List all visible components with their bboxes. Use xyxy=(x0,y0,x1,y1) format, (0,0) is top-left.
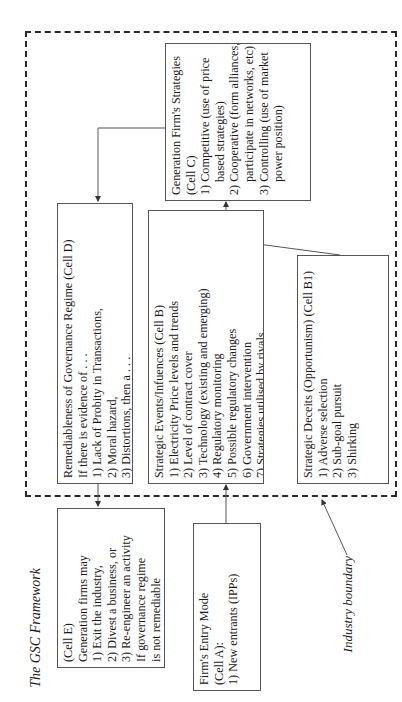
cell-b1-line: 2) Sub-goal pursuit xyxy=(330,261,345,478)
cell-b1-line: 3) Shirking xyxy=(345,261,360,478)
cell-b-line: 2) Level of contract cover xyxy=(181,216,196,478)
cell-e-line: 3) Re-engineer an activity xyxy=(119,514,134,662)
cell-b-box: Strategic Events/Infuences (Cell B) 1) E… xyxy=(148,210,264,484)
cell-d-line: 3) Distortions, then a . . . xyxy=(119,209,133,478)
cell-a-box: Firm's Entry Mode (Cell A): 1) New entra… xyxy=(193,523,261,691)
cell-b-line: 7) Strategies utilised by rivals xyxy=(254,216,264,478)
cell-b-line: 6) Government intervention xyxy=(240,216,255,478)
cell-b1-line: 1) Adverse selection xyxy=(316,261,331,478)
cell-b-line: 5) Possible regulatory changes xyxy=(225,216,240,478)
cell-a-line: (Cell A): xyxy=(212,529,227,685)
cell-d-title: Remediableness of Governance Regime (Cel… xyxy=(61,209,76,478)
cell-a-line: 1) New entrants (IPPs) xyxy=(226,529,241,685)
cell-c-line: 1) Competitive (use of price xyxy=(198,49,213,195)
cell-c-box: Generation Firm's Strategies (Cell C) 1)… xyxy=(165,43,311,201)
cell-c-line: 3) Controlling (use of market xyxy=(257,49,272,195)
cell-e-line: 1) Exit the industry, xyxy=(90,514,105,662)
cell-d-line: If there is evidence of . . . xyxy=(76,209,91,478)
figure-title: The GSC Framework xyxy=(28,568,44,688)
cell-b-line: 3) Technology (existing and emerging) xyxy=(196,216,211,478)
cell-b-line: 4) Regulatory monitoring xyxy=(210,216,225,478)
cell-e-line: If governance regime xyxy=(134,514,149,662)
cell-b-title: Strategic Events/Infuences (Cell B) xyxy=(152,216,167,478)
cell-b1-title: Strategic Deceits (Opportunism) (Cell B1… xyxy=(301,261,316,478)
cell-e-line: Generation firms may xyxy=(76,514,91,662)
cell-e-line: 2) Divest a business, or xyxy=(105,514,120,662)
cell-c-line: based strategies) xyxy=(213,49,228,195)
cell-c-line: power position) xyxy=(271,49,286,195)
industry-boundary-label: Industry boundary xyxy=(340,556,356,652)
cell-e-line: is not remediable xyxy=(149,514,164,662)
cell-c-line: participate in networks, etc) xyxy=(242,49,257,195)
cell-d-line: 1) Lack of Probity in Transactions, xyxy=(90,209,105,478)
cell-e-title: (Cell E) xyxy=(61,514,76,662)
cell-c-line: (Cell C) xyxy=(184,49,199,195)
cell-b-line: 1) Electricity Price levels and trends xyxy=(167,216,182,478)
cell-d-box: Remediableness of Governance Regime (Cel… xyxy=(57,203,133,484)
cell-e-box: (Cell E) Generation firms may 1) Exit th… xyxy=(57,508,165,668)
cell-a-title: Firm's Entry Mode xyxy=(197,529,212,685)
cell-d-line: 2) Moral hazard, xyxy=(105,209,120,478)
cell-b1-box: Strategic Deceits (Opportunism) (Cell B1… xyxy=(297,255,389,484)
cell-c-line: 2) Cooperative (form alliances, xyxy=(227,49,242,195)
cell-c-title: Generation Firm's Strategies xyxy=(169,49,184,195)
